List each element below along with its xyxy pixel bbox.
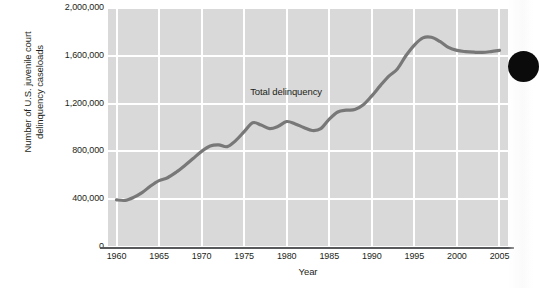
y-axis-tick-labels: 0400,000800,0001,200,0001,600,0002,000,0…	[38, 0, 104, 288]
x-axis-tick-label-8: 2000	[437, 251, 477, 261]
x-axis-line	[100, 247, 514, 249]
y-axis-tick-label-1: 400,000	[38, 193, 104, 203]
y-axis-tick-label-4: 1,600,000	[38, 50, 104, 60]
x-axis-tick-label-6: 1990	[352, 251, 392, 261]
page-edge-dot-artifact	[508, 51, 539, 82]
plot-area	[108, 8, 508, 247]
x-axis-tick-label-2: 1970	[182, 251, 222, 261]
x-axis-tick-label-4: 1980	[267, 251, 307, 261]
y-axis-title-line-1: Number of U.S. juvenile court	[22, 31, 35, 152]
y-axis-tick-label-3: 1,200,000	[38, 98, 104, 108]
x-axis-tick-label-5: 1985	[309, 251, 349, 261]
series-line-total-delinquency	[108, 8, 508, 247]
x-axis-title: Year	[108, 266, 508, 277]
x-axis-tick-label-3: 1975	[224, 251, 264, 261]
x-axis-tick-label-1: 1965	[139, 251, 179, 261]
page-edge-shading	[508, 0, 533, 288]
x-axis-tick-label-7: 1995	[394, 251, 434, 261]
x-axis-tick-labels: 1960196519701975198019851990199520002005	[0, 251, 533, 265]
y-axis-tick-label-2: 800,000	[38, 145, 104, 155]
y-axis-tick-label-5: 2,000,000	[38, 2, 104, 12]
x-axis-tick-label-0: 1960	[97, 251, 137, 261]
series-annotation-total-delinquency: Total delinquency	[250, 86, 322, 97]
y-axis-tick-label-0: 0	[38, 241, 104, 251]
